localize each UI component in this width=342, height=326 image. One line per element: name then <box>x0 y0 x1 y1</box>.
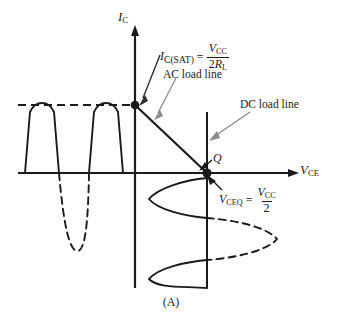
ac-load-leader-line <box>158 78 176 113</box>
dc-load-leader-line <box>215 112 250 136</box>
ic-axis-label: IC <box>118 10 128 26</box>
saturation-point-marker <box>131 101 140 110</box>
collector-current-positive-hump-2 <box>89 103 123 173</box>
collector-current-negative-lobe <box>59 173 89 251</box>
vce-axis-arrowhead <box>288 169 299 177</box>
vceq-fraction: VCC 2 <box>255 186 277 214</box>
ic-sat-equation: IC(SAT) = VCC 2RL <box>160 42 229 73</box>
figure-caption: (A) <box>0 296 342 309</box>
q-point-marker <box>202 168 211 177</box>
output-voltage-solid-lobe-1 <box>149 178 207 218</box>
load-line-figure: IC VCE AC load line DC load line Q IC(SA… <box>0 0 342 326</box>
dc-load-line-label: DC load line <box>240 98 299 110</box>
output-voltage-solid-lobe-2 <box>149 260 207 288</box>
ic-sat-fraction: VCC 2RL <box>207 42 229 73</box>
dc-load-leader-arrowhead <box>209 131 220 141</box>
ac-load-line <box>135 105 207 173</box>
output-voltage-dashed-lobe <box>207 218 277 260</box>
vceq-equation: VCEQ = VCC 2 <box>219 186 278 214</box>
collector-current-positive-hump-1 <box>25 103 59 173</box>
ic-axis-arrowhead <box>131 25 139 36</box>
vce-axis-label: VCE <box>300 163 319 179</box>
isat-leader-line <box>143 55 160 98</box>
q-point-label: Q <box>213 152 222 165</box>
